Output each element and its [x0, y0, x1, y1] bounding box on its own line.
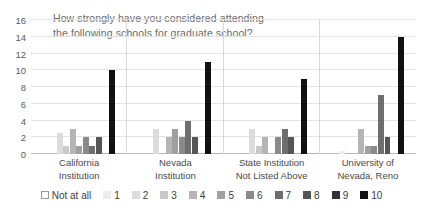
category-label: California Institution — [31, 157, 127, 183]
y-axis-tick-label: 8 — [4, 82, 26, 93]
legend-item[interactable]: 2 — [132, 190, 149, 201]
legend-item[interactable]: 10 — [360, 190, 382, 201]
plot-area — [31, 20, 416, 154]
legend-swatch — [246, 191, 254, 199]
legend-label: 8 — [314, 190, 320, 201]
legend-swatch — [275, 191, 283, 199]
legend-swatch — [189, 191, 197, 199]
y-axis-tick-label: 14 — [4, 31, 26, 42]
bar-group — [224, 20, 320, 154]
bar — [358, 129, 364, 154]
legend-label: 2 — [143, 190, 149, 201]
bar-series-container — [140, 20, 211, 154]
bar — [282, 129, 288, 154]
bar — [398, 37, 404, 154]
category-axis-labels: California InstitutionNevada Institution… — [31, 157, 416, 183]
bar — [63, 146, 69, 154]
legend-item[interactable]: 7 — [275, 190, 292, 201]
legend-label: 10 — [371, 190, 382, 201]
legend-label: 7 — [286, 190, 292, 201]
category-label: University of Nevada, Reno — [320, 157, 416, 183]
legend-swatch — [360, 191, 368, 199]
bar — [339, 151, 345, 154]
legend-label: 1 — [114, 190, 120, 201]
bar — [378, 95, 384, 154]
bar-group — [127, 20, 223, 154]
bar — [385, 137, 391, 154]
bar — [256, 146, 262, 154]
bar — [185, 121, 191, 155]
legend-label: Not at all — [52, 190, 91, 201]
bar — [249, 129, 255, 154]
bar — [83, 137, 89, 154]
legend-label: 3 — [171, 190, 177, 201]
legend-item[interactable]: 8 — [303, 190, 320, 201]
bar — [172, 129, 178, 154]
y-axis-tick-label: 4 — [4, 115, 26, 126]
y-axis-tick-label: 12 — [4, 48, 26, 59]
bar-series-container — [236, 20, 307, 154]
legend-item[interactable]: 1 — [103, 190, 120, 201]
y-axis-tick-label: 16 — [4, 15, 26, 26]
bar — [109, 70, 115, 154]
bar-groups — [31, 20, 416, 154]
legend-swatch — [303, 191, 311, 199]
bar — [371, 146, 377, 154]
legend-swatch — [160, 191, 168, 199]
bar — [76, 146, 82, 154]
y-axis: 0246810121416 — [4, 20, 26, 154]
legend-item[interactable]: Not at all — [41, 190, 91, 201]
legend-swatch — [103, 191, 111, 199]
bar — [365, 146, 371, 154]
category-label: State Institution Not Listed Above — [224, 157, 320, 183]
bar — [57, 133, 63, 154]
bar-series-container — [332, 20, 403, 154]
y-axis-tick-label: 2 — [4, 132, 26, 143]
bar-group — [31, 20, 127, 154]
legend-label: 4 — [200, 190, 206, 201]
legend-label: 9 — [343, 190, 349, 201]
legend-label: 6 — [257, 190, 263, 201]
bar — [288, 137, 294, 154]
legend-swatch — [217, 191, 225, 199]
bar — [262, 137, 268, 154]
y-axis-tick-label: 0 — [4, 149, 26, 160]
legend-label: 5 — [228, 190, 234, 201]
bar — [70, 129, 76, 154]
bar-chart: How strongly have you considered attendi… — [0, 0, 423, 208]
y-axis-tick-label: 6 — [4, 98, 26, 109]
y-axis-tick-label: 10 — [4, 65, 26, 76]
bar — [89, 146, 95, 154]
legend-item[interactable]: 4 — [189, 190, 206, 201]
legend-swatch — [132, 191, 140, 199]
legend-swatch — [41, 191, 49, 199]
legend-item[interactable]: 5 — [217, 190, 234, 201]
bar — [96, 137, 102, 154]
legend-item[interactable]: 6 — [246, 190, 263, 201]
bar — [192, 137, 198, 154]
bar — [166, 137, 172, 154]
legend-item[interactable]: 3 — [160, 190, 177, 201]
bar-series-container — [44, 20, 115, 154]
bar — [153, 129, 159, 154]
bar — [205, 62, 211, 154]
legend-item[interactable]: 9 — [332, 190, 349, 201]
chart-legend: Not at all12345678910 — [0, 186, 423, 204]
category-label: Nevada Institution — [127, 157, 223, 183]
legend-swatch — [332, 191, 340, 199]
bar — [301, 79, 307, 154]
bar — [179, 137, 185, 154]
bar — [275, 137, 281, 154]
bar-group — [320, 20, 416, 154]
